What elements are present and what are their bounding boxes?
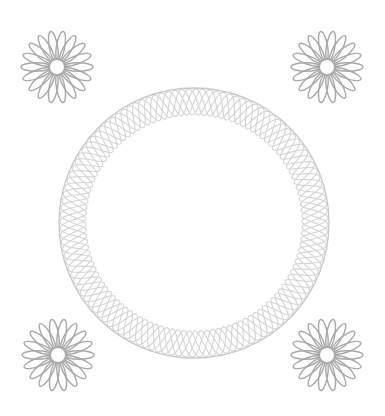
spiro-stroke xyxy=(60,89,328,357)
flower-bottom-right-icon xyxy=(291,319,363,391)
petal xyxy=(48,319,61,350)
flower-center xyxy=(49,59,65,75)
petal xyxy=(317,31,330,62)
spirograph-ring xyxy=(59,88,329,358)
flower-top-left-icon xyxy=(21,31,93,103)
petal xyxy=(55,319,68,350)
flower-center xyxy=(50,347,66,363)
petal xyxy=(324,72,337,103)
spiro-stroke xyxy=(60,89,327,356)
spiro-stroke xyxy=(61,90,327,356)
petal xyxy=(47,31,60,62)
spirograph-canvas xyxy=(0,0,385,416)
petal xyxy=(48,360,61,391)
petal xyxy=(47,72,60,103)
flower-bottom-left-icon xyxy=(22,319,94,391)
flower-top-right-icon xyxy=(291,31,363,103)
petal xyxy=(324,319,337,350)
petal xyxy=(55,360,68,391)
petal xyxy=(317,319,330,350)
petal xyxy=(317,360,330,391)
petal xyxy=(324,360,337,391)
flower-center xyxy=(319,59,335,75)
spiro-stroke xyxy=(60,89,328,357)
flower-center xyxy=(319,347,335,363)
petal xyxy=(317,72,330,103)
spiro-stroke xyxy=(61,90,328,357)
petal xyxy=(54,31,67,62)
petal xyxy=(54,72,67,103)
petal xyxy=(324,31,337,62)
